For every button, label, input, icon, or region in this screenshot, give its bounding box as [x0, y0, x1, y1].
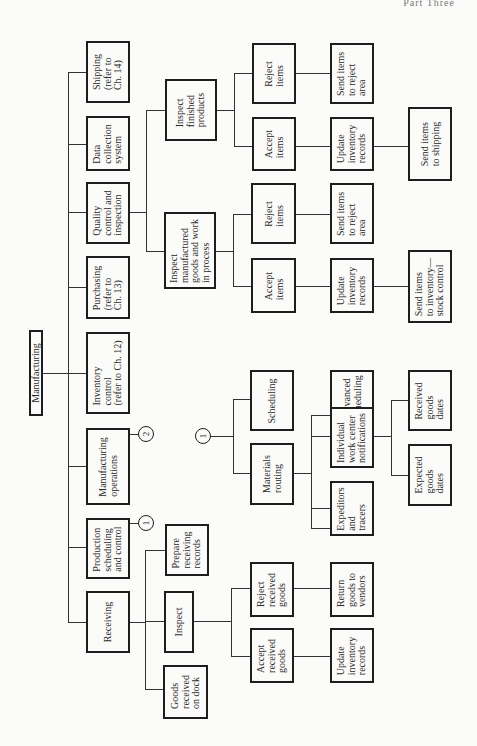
connector-line — [311, 528, 331, 529]
connector-line — [295, 73, 331, 74]
connector-line — [373, 436, 391, 437]
wip-reject-items-box: Reject items — [251, 183, 296, 244]
data-collection-box: Data collection system — [86, 116, 130, 171]
inspect-manufactured-box: Inspect manufactured goods and work in p… — [164, 212, 216, 289]
connector-line — [193, 621, 231, 622]
data-collection-label: Data collection system — [92, 124, 124, 163]
connector-line — [129, 212, 146, 213]
connector-line — [234, 73, 235, 146]
connector-line — [391, 475, 409, 476]
connector-line — [373, 146, 409, 147]
connector-line — [234, 146, 252, 147]
receiving-box: Receiving — [86, 591, 130, 653]
connector-line — [68, 622, 87, 623]
connector-line — [145, 689, 165, 690]
send-to-shipping-box: Send items to shipping — [408, 107, 452, 181]
accept-received-goods-box: Accept received goods — [250, 628, 294, 683]
update-inventory-records-box: Update inventory records — [330, 628, 374, 683]
purchasing-box: Purchasing (refer to Ch. 13) — [86, 256, 130, 319]
connector-line — [295, 286, 331, 287]
shipping-label: Shipping (refer to Ch. 14) — [92, 54, 124, 90]
inspect-finished-box: Inspect finished products — [165, 79, 217, 141]
finished-send-reject-box: Send items to reject area — [330, 43, 374, 104]
connector-line — [129, 622, 145, 623]
wip-accept-items-box: Accept items — [251, 258, 296, 313]
connector-line — [145, 621, 165, 622]
return-goods-box: Return goods to vendors — [330, 562, 374, 617]
connector-line — [231, 656, 251, 657]
connector-circle-2: 2 — [138, 426, 154, 442]
scheduling-box: Scheduling — [250, 370, 294, 431]
page-header: Part Three — [403, 0, 455, 8]
finished-accept-items-box: Accept items — [252, 117, 296, 171]
connector-line — [391, 400, 409, 401]
connector-line — [233, 399, 234, 473]
connector-line — [391, 400, 392, 475]
connector-line — [234, 73, 252, 74]
connector-line — [311, 436, 331, 437]
connector-line — [68, 373, 87, 374]
prepare-receiving-records-box: Prepare receiving records — [165, 524, 209, 576]
reject-received-goods-box: Reject received goods — [250, 562, 294, 617]
connector-line — [68, 547, 87, 548]
connector-line — [211, 436, 233, 437]
goods-received-on-dock-box: Goods received on dock — [163, 665, 208, 719]
connector-line — [68, 72, 87, 73]
individual-work-center-box: Individual work center notifications — [330, 407, 374, 468]
connector-line — [293, 656, 331, 657]
finished-update-inventory-box: Update inventory records — [330, 117, 374, 171]
received-goods-dates-box: Received goods dates — [408, 370, 452, 431]
manufacturing-operations-box: Manufacturing operations — [86, 428, 130, 505]
wip-update-inventory-box: Update inventory records — [330, 258, 374, 313]
production-scheduling-label: Production scheduling and control — [92, 526, 124, 571]
quality-control-box: Quality control and inspection — [86, 182, 130, 244]
connector-circle-1: 1 — [138, 515, 154, 531]
connector-line — [216, 110, 234, 111]
connector-line — [146, 110, 147, 252]
receiving-label: Receiving — [103, 602, 114, 643]
wip-send-reject-box: Send items to reject area — [330, 183, 374, 244]
connector-line — [68, 287, 87, 288]
expected-goods-dates-box: Expected goods dates — [408, 444, 452, 506]
production-scheduling-box: Production scheduling and control — [86, 518, 130, 579]
connector-line — [68, 144, 87, 145]
connector-line — [233, 214, 252, 215]
connector-line — [233, 286, 252, 287]
inventory-control-label: Inventory control (refer to Ch. 12) — [92, 341, 124, 406]
connector-circle-1-target: 1 — [195, 428, 211, 444]
connector-line — [294, 473, 311, 474]
connector-line — [146, 251, 165, 252]
inspect-box: Inspect — [164, 591, 194, 653]
connector-line — [311, 415, 312, 528]
connector-line — [145, 550, 146, 689]
connector-line — [146, 110, 165, 111]
connector-line — [68, 212, 87, 213]
inventory-control-box: Inventory control (refer to Ch. 12) — [86, 332, 130, 414]
connector-line — [215, 251, 233, 252]
connector-line — [231, 588, 232, 656]
connector-line — [68, 466, 87, 467]
send-to-inventory-box: Send items to inventory— stock control — [408, 250, 452, 323]
manufacturing-operations-label: Manufacturing operations — [98, 437, 119, 496]
manufacturing-label: Manufacturing — [31, 343, 42, 402]
connector-line — [373, 286, 409, 287]
connector-line — [42, 373, 68, 374]
connector-line — [295, 214, 331, 215]
purchasing-label: Purchasing (refer to Ch. 13) — [92, 265, 124, 309]
connector-line — [233, 214, 234, 286]
connector-line — [311, 415, 331, 416]
connector-line — [68, 72, 69, 623]
connector-line — [293, 588, 331, 589]
finished-reject-items-box: Reject items — [252, 43, 296, 104]
connector-line — [145, 550, 165, 551]
connector-line — [231, 588, 251, 589]
connector-line — [295, 146, 331, 147]
connector-line — [311, 508, 331, 509]
materials-routing-box: Materials routing — [250, 443, 294, 505]
shipping-box: Shipping (refer to Ch. 14) — [86, 41, 130, 103]
manufacturing-box: Manufacturing — [29, 330, 43, 416]
quality-control-label: Quality control and inspection — [92, 190, 124, 235]
expeditors-tracers-box: Expeditors and tracers — [330, 481, 374, 536]
